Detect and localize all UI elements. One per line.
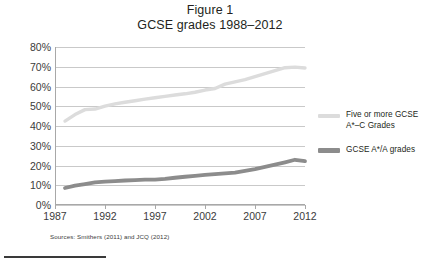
legend-label-five-or-more-gcse-ac: Five or more GCSE A*–C Grades: [346, 110, 418, 131]
legend-item-gcse-a-star-a: GCSE A*/A grades: [318, 145, 446, 156]
series-line-gcse-a-star-a: [65, 160, 305, 188]
x-tick-1987: [55, 205, 56, 209]
x-tick-label-2002: 2002: [182, 210, 228, 222]
figure-title-line-2: GCSE grades 1988–2012: [60, 18, 360, 33]
legend-label-line-2: A*–C Grades: [346, 121, 395, 130]
bottom-rule: [4, 256, 106, 258]
figure-root: Figure 1 GCSE grades 1988–2012 80%70%60%…: [0, 0, 448, 264]
x-tick-2012: [305, 205, 306, 209]
x-axis-labels: 198719921997200220072012: [55, 210, 305, 226]
y-tick-label-10: 10%: [7, 180, 51, 190]
x-tick-1992: [105, 205, 106, 209]
x-tick-1997: [155, 205, 156, 209]
legend-item-five-or-more-gcse-ac: Five or more GCSE A*–C Grades: [318, 110, 446, 131]
figure-title: Figure 1 GCSE grades 1988–2012: [60, 3, 360, 33]
x-tick-label-1992: 1992: [82, 210, 128, 222]
legend-label-line-1: GCSE A*/A grades: [346, 145, 415, 154]
y-tick-label-0: 0%: [7, 200, 51, 210]
x-tick-label-1997: 1997: [132, 210, 178, 222]
x-tick-label-1987: 1987: [32, 210, 78, 222]
x-tick-2002: [205, 205, 206, 209]
chart-legend: Five or more GCSE A*–C Grades GCSE A*/A …: [318, 110, 446, 170]
y-tick-label-80: 80%: [7, 42, 51, 52]
x-tick-2007: [255, 205, 256, 209]
series-line-five-or-more-gcse-ac: [65, 67, 305, 121]
legend-swatch-light: [318, 114, 340, 118]
y-tick-label-30: 30%: [7, 141, 51, 151]
legend-label-gcse-a-star-a: GCSE A*/A grades: [346, 145, 415, 156]
legend-swatch-dark: [318, 148, 340, 153]
y-tick-label-60: 60%: [7, 82, 51, 92]
series-lines: [55, 47, 305, 205]
y-tick-label-20: 20%: [7, 161, 51, 171]
y-tick-label-40: 40%: [7, 121, 51, 131]
y-tick-label-70: 70%: [7, 62, 51, 72]
x-tick-label-2007: 2007: [232, 210, 278, 222]
chart-plot-area: [55, 47, 305, 205]
gridline-0: [55, 205, 305, 206]
x-tick-label-2012: 2012: [282, 210, 328, 222]
y-axis-labels: 80%70%60%50%40%30%20%10%0%: [4, 47, 51, 205]
figure-title-line-1: Figure 1: [60, 3, 360, 18]
y-tick-label-50: 50%: [7, 101, 51, 111]
source-note: Sources: Smithers (2011) and JCQ (2012): [50, 233, 169, 241]
legend-label-line-1: Five or more GCSE: [346, 110, 418, 119]
